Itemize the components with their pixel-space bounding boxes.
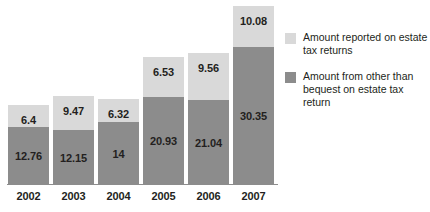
legend-swatch-icon: [285, 33, 296, 44]
bar-segment-other[interactable]: 30.35: [233, 47, 274, 185]
x-tick-label: 2007: [233, 190, 274, 202]
bar-group[interactable]: 9.47 12.15: [53, 96, 94, 185]
bar-segment-label: 9.47: [53, 106, 94, 117]
x-tick-label: 2003: [53, 190, 94, 202]
bar-segment-label: 20.93: [143, 136, 184, 147]
x-tick-label: 2002: [8, 190, 49, 202]
stacked-bar-chart: 6.4 12.76 2002 9.47 12.15 2003 6.32 14: [0, 0, 430, 212]
bar-segment-other[interactable]: 21.04: [188, 100, 229, 185]
bar-group[interactable]: 9.56 21.04: [188, 53, 229, 185]
bar-segment-reported[interactable]: 6.32: [98, 99, 139, 122]
bar-group[interactable]: 6.4 12.76: [8, 105, 49, 185]
bar-segment-reported[interactable]: 6.53: [143, 57, 184, 97]
bar-segment-other[interactable]: 12.76: [8, 127, 49, 185]
legend: Amount reported on estate tax returns Am…: [285, 31, 430, 122]
bar-segment-label: 10.08: [233, 16, 274, 27]
bar-segment-label: 14: [98, 148, 139, 159]
x-tick-label: 2005: [143, 190, 184, 202]
bar-segment-label: 12.15: [53, 152, 94, 163]
bar-segment-label: 6.53: [143, 67, 184, 78]
bar-segment-other[interactable]: 14: [98, 122, 139, 185]
bar-group[interactable]: 10.08 30.35: [233, 6, 274, 185]
plot-area: 6.4 12.76 2002 9.47 12.15 2003 6.32 14: [0, 0, 285, 212]
bar-group[interactable]: 6.32 14: [98, 99, 139, 185]
legend-entry[interactable]: Amount reported on estate tax returns: [285, 31, 430, 57]
x-tick-label: 2004: [98, 190, 139, 202]
bar-segment-reported[interactable]: 6.4: [8, 105, 49, 127]
bar-segment-label: 6.4: [8, 115, 49, 126]
legend-label: Amount reported on estate tax returns: [303, 31, 428, 57]
x-tick-label: 2006: [188, 190, 229, 202]
bar-segment-reported[interactable]: 9.47: [53, 96, 94, 130]
legend-swatch-icon: [285, 72, 296, 83]
bar-segment-other[interactable]: 20.93: [143, 97, 184, 185]
bar-segment-reported[interactable]: 10.08: [233, 6, 274, 47]
bar-segment-label: 12.76: [8, 151, 49, 162]
legend-entry[interactable]: Amount from other than bequest on estate…: [285, 70, 430, 109]
bar-segment-reported[interactable]: 9.56: [188, 53, 229, 100]
bar-segment-label: 6.32: [98, 109, 139, 120]
bar-group[interactable]: 6.53 20.93: [143, 57, 184, 185]
bar-segment-label: 21.04: [188, 137, 229, 148]
bar-segment-label: 30.35: [233, 111, 274, 122]
bar-segment-label: 9.56: [188, 63, 229, 74]
legend-label: Amount from other than bequest on estate…: [303, 70, 428, 109]
bar-segment-other[interactable]: 12.15: [53, 130, 94, 185]
